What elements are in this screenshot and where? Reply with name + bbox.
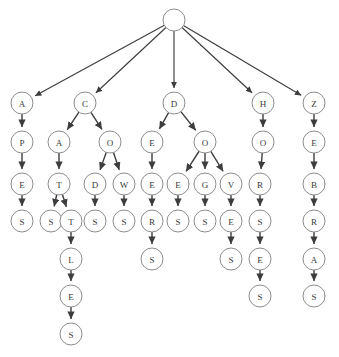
node-circle[interactable]	[141, 210, 163, 232]
tree-node[interactable]: R	[141, 210, 163, 232]
tree-edge	[186, 151, 199, 171]
tree-node[interactable]: R	[249, 173, 271, 195]
tree-node[interactable]: E	[220, 210, 242, 232]
tree-node[interactable]: O	[99, 131, 121, 153]
tree-edge	[159, 113, 168, 129]
node-circle[interactable]	[163, 9, 185, 31]
tree-edge	[67, 112, 79, 129]
tree-node[interactable]: S	[249, 285, 271, 307]
tree-node[interactable]: S	[113, 210, 135, 232]
tree-node[interactable]: S	[167, 210, 189, 232]
node-circle[interactable]	[84, 173, 106, 195]
node-circle[interactable]	[84, 210, 106, 232]
node-circle[interactable]	[249, 248, 271, 270]
node-circle[interactable]	[194, 131, 216, 153]
edge-layer	[22, 25, 314, 319]
node-circle[interactable]	[48, 131, 70, 153]
node-circle[interactable]	[11, 210, 33, 232]
tree-node[interactable]: A	[48, 131, 70, 153]
tree-node[interactable]: S	[220, 248, 242, 270]
tree-node[interactable]: C	[74, 92, 96, 114]
node-circle[interactable]	[113, 173, 135, 195]
node-circle[interactable]	[40, 210, 62, 232]
node-circle[interactable]	[220, 173, 242, 195]
node-circle[interactable]	[303, 92, 325, 114]
node-circle[interactable]	[60, 248, 82, 270]
tree-node[interactable]: O	[252, 131, 274, 153]
node-circle[interactable]	[252, 131, 274, 153]
tree-node[interactable]: A	[303, 248, 325, 270]
tree-node[interactable]	[163, 9, 185, 31]
tree-node[interactable]: D	[84, 173, 106, 195]
tree-edge	[183, 26, 301, 96]
node-circle[interactable]	[60, 285, 82, 307]
tree-edge	[91, 112, 102, 129]
node-circle[interactable]	[249, 285, 271, 307]
tree-node[interactable]: S	[84, 210, 106, 232]
node-circle[interactable]	[167, 210, 189, 232]
tree-node[interactable]: P	[11, 131, 33, 153]
tree-node[interactable]: B	[303, 173, 325, 195]
tree-edge	[54, 195, 57, 207]
tree-node[interactable]: E	[60, 285, 82, 307]
node-circle[interactable]	[141, 131, 163, 153]
node-circle[interactable]	[141, 173, 163, 195]
tree-node[interactable]: S	[303, 285, 325, 307]
tree-node[interactable]: S	[60, 323, 82, 345]
tree-node[interactable]: E	[303, 131, 325, 153]
tree-node[interactable]: D	[163, 92, 185, 114]
node-circle[interactable]	[113, 210, 135, 232]
node-circle[interactable]	[48, 173, 70, 195]
node-circle[interactable]	[220, 210, 242, 232]
node-circle[interactable]	[249, 173, 271, 195]
tree-node[interactable]: E	[167, 173, 189, 195]
node-circle[interactable]	[163, 92, 185, 114]
node-circle[interactable]	[303, 248, 325, 270]
node-circle[interactable]	[194, 210, 216, 232]
tree-node[interactable]: V	[220, 173, 242, 195]
tree-node[interactable]: E	[11, 173, 33, 195]
tree-node[interactable]: T	[48, 173, 70, 195]
node-circle[interactable]	[303, 173, 325, 195]
tree-node[interactable]: S	[40, 210, 62, 232]
tree-edge	[113, 152, 119, 169]
tree-node[interactable]: A	[11, 92, 33, 114]
node-circle[interactable]	[303, 131, 325, 153]
node-circle[interactable]	[167, 173, 189, 195]
tree-edge	[62, 194, 66, 206]
tree-node[interactable]: S	[11, 210, 33, 232]
node-circle[interactable]	[249, 210, 271, 232]
tree-node[interactable]: E	[141, 173, 163, 195]
tree-edge	[100, 152, 106, 170]
node-circle[interactable]	[74, 92, 96, 114]
node-circle[interactable]	[252, 92, 274, 114]
tree-node[interactable]: R	[303, 210, 325, 232]
tree-node[interactable]: G	[194, 173, 216, 195]
tree-node[interactable]: S	[249, 210, 271, 232]
tree-node[interactable]: E	[141, 131, 163, 153]
node-circle[interactable]	[303, 285, 325, 307]
node-circle[interactable]	[194, 173, 216, 195]
node-layer: ACDHZPAOEOOEETDWEEGVRBSSTSSRSSESRLSSEAES…	[11, 9, 325, 345]
node-circle[interactable]	[220, 248, 242, 270]
tree-node[interactable]: L	[60, 248, 82, 270]
tree-edge	[181, 112, 196, 131]
node-circle[interactable]	[303, 210, 325, 232]
tree-edge	[261, 153, 262, 169]
tree-edge	[211, 151, 223, 171]
node-circle[interactable]	[60, 323, 82, 345]
tree-node[interactable]: S	[141, 248, 163, 270]
node-circle[interactable]	[11, 92, 33, 114]
node-circle[interactable]	[141, 248, 163, 270]
node-circle[interactable]	[99, 131, 121, 153]
tree-node[interactable]: H	[252, 92, 274, 114]
node-circle[interactable]	[11, 173, 33, 195]
tree-node[interactable]: Z	[303, 92, 325, 114]
tree-node[interactable]: W	[113, 173, 135, 195]
tree-node[interactable]: S	[194, 210, 216, 232]
node-circle[interactable]	[11, 131, 33, 153]
tree-node[interactable]: T	[60, 210, 82, 232]
tree-node[interactable]: O	[194, 131, 216, 153]
tree-node[interactable]: E	[249, 248, 271, 270]
node-circle[interactable]	[60, 210, 82, 232]
